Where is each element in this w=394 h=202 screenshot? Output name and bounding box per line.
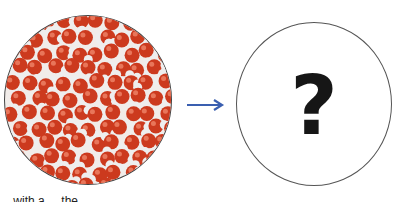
caption: ... with a ... the ... xyxy=(0,194,91,202)
molecules-illustration xyxy=(5,16,171,184)
question-mark: ? xyxy=(290,65,338,147)
water-molecules-circle xyxy=(4,15,172,185)
unknown-result-circle: ? xyxy=(236,22,392,186)
arrow-right-icon xyxy=(186,98,226,112)
